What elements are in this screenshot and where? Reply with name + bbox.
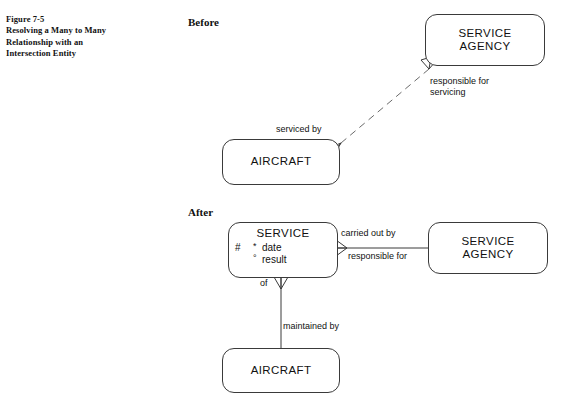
relationship-label-carried-out-by: carried out by bbox=[341, 228, 396, 239]
entity-label: SERVICE AGENCY bbox=[461, 235, 514, 262]
entity-label-line-1: SERVICE bbox=[256, 227, 309, 241]
entity-label-line-2: AGENCY bbox=[458, 40, 511, 54]
before-relationship-line bbox=[341, 69, 429, 143]
entity-service-after[interactable]: SERVICE # * date ° result bbox=[228, 222, 338, 278]
relationship-label-serviced-by: serviced by bbox=[276, 124, 322, 135]
entity-label: AIRCRAFT bbox=[251, 364, 312, 378]
relationship-label-responsible-for: responsible for bbox=[348, 251, 407, 262]
figure-canvas: Figure 7-5 Resolving a Many to Many Rela… bbox=[0, 0, 571, 405]
entity-label-line-1: SERVICE bbox=[461, 235, 514, 249]
relationship-label-line-1: responsible for bbox=[430, 76, 489, 87]
entity-aircraft-before[interactable]: AIRCRAFT bbox=[222, 139, 340, 185]
attribute-name: date bbox=[262, 242, 281, 254]
entity-label-line-1: SERVICE bbox=[458, 27, 511, 41]
entity-label-line-2: AGENCY bbox=[461, 248, 514, 262]
relationship-label-line-2: servicing bbox=[430, 87, 489, 98]
entity-label: SERVICE AGENCY bbox=[458, 27, 511, 54]
after-crowsfoot-service-bottom bbox=[274, 277, 288, 289]
relationship-label-responsible-for-servicing: responsible for servicing bbox=[430, 76, 489, 97]
attribute-row: ° result bbox=[235, 254, 286, 266]
entity-label: SERVICE bbox=[256, 227, 309, 241]
entity-aircraft-after[interactable]: AIRCRAFT bbox=[222, 348, 340, 393]
attribute-key-icon: # bbox=[235, 242, 253, 254]
entity-label: AIRCRAFT bbox=[251, 155, 312, 169]
attribute-optional-icon: ° bbox=[253, 252, 262, 264]
relationship-label-of: of bbox=[260, 278, 268, 289]
entity-service-agency-before[interactable]: SERVICE AGENCY bbox=[425, 14, 545, 66]
attribute-mandatory-icon: * bbox=[253, 240, 262, 252]
attribute-name: result bbox=[262, 254, 286, 266]
entity-service-agency-after[interactable]: SERVICE AGENCY bbox=[428, 222, 548, 274]
relationship-label-maintained-by: maintained by bbox=[283, 321, 339, 332]
entity-label-line-1: AIRCRAFT bbox=[251, 155, 312, 169]
entity-label-line-1: AIRCRAFT bbox=[251, 364, 312, 378]
attribute-list: # * date ° result bbox=[229, 242, 337, 266]
